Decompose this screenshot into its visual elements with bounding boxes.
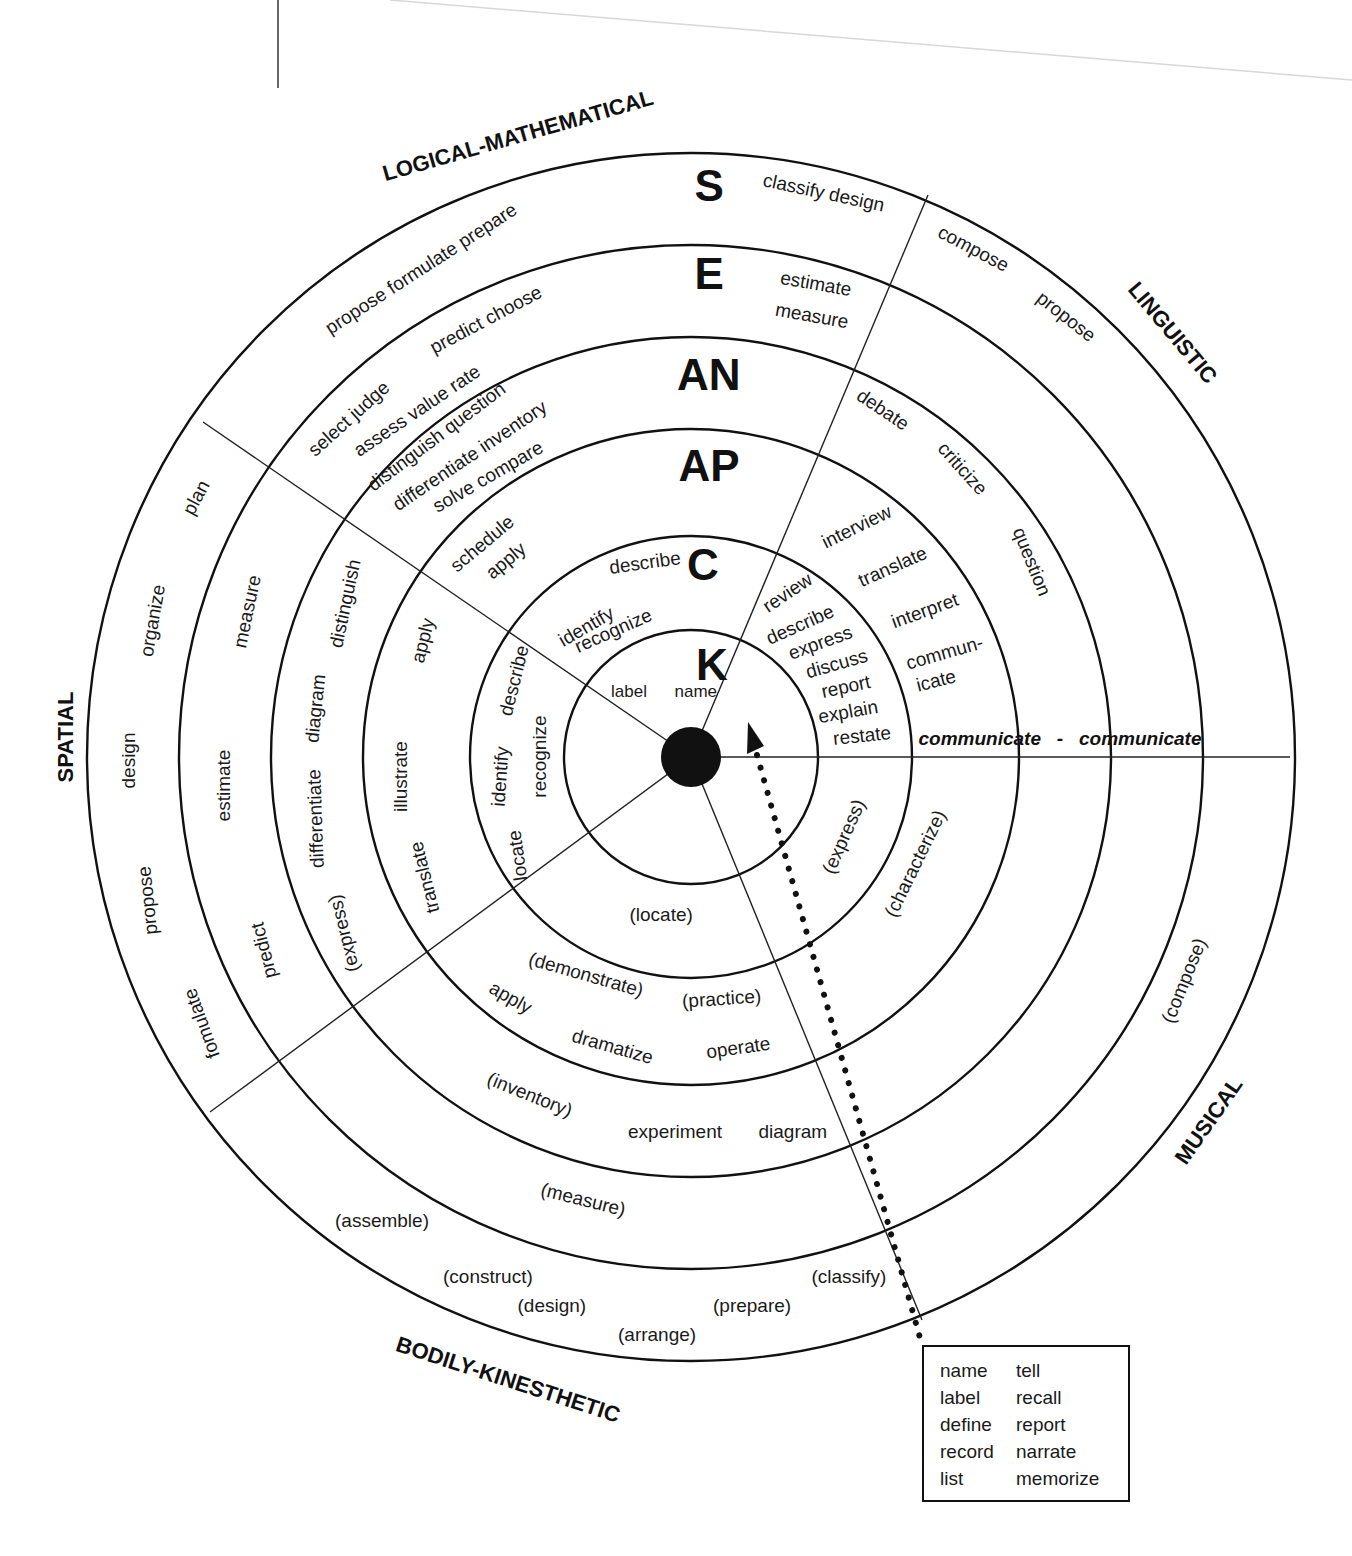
bloom-gardner-wheel-diagram: KCAPANESLOGICAL-MATHEMATICALLINGUISTICSP… — [0, 0, 1352, 1556]
verb-label: identify — [489, 745, 512, 806]
verb-label: diagram — [759, 1122, 828, 1141]
verb-label: label — [611, 683, 647, 700]
knowledge-verbs-legend: name tell label recall define report rec… — [922, 1345, 1130, 1502]
verb-label: design — [119, 732, 138, 788]
verb-label: estimate — [214, 749, 233, 821]
verb-label: (prepare) — [713, 1296, 791, 1315]
page-edge-shadow — [390, 0, 1352, 80]
legend-verb: label — [940, 1386, 1016, 1409]
level-label-s: S — [695, 164, 724, 208]
verb-label: name — [675, 683, 718, 700]
legend-verb: define — [940, 1413, 1016, 1436]
intelligence-label-spatial: SPATIAL — [55, 692, 77, 783]
verb-label: (assemble) — [335, 1211, 429, 1230]
legend-verb: memorize — [1016, 1467, 1126, 1490]
level-label-k: K — [696, 643, 728, 687]
verb-label: (classify) — [812, 1267, 887, 1286]
verb-label: (practice) — [681, 986, 761, 1010]
verb-label: illustrate — [390, 741, 409, 812]
communicate-label: communicate - communicate — [919, 729, 1202, 748]
arrowhead-icon — [747, 722, 764, 754]
center-dot — [661, 727, 721, 787]
level-label-an: AN — [677, 353, 741, 397]
legend-verb: recall — [1016, 1386, 1126, 1409]
level-label-c: C — [687, 543, 719, 587]
verb-label: experiment — [628, 1122, 722, 1141]
verb-label: restate — [832, 723, 892, 748]
level-label-e: E — [695, 252, 724, 296]
verb-label: (design) — [518, 1296, 587, 1315]
legend-verb: tell — [1016, 1359, 1126, 1382]
legend-grid: name tell label recall define report rec… — [940, 1359, 1126, 1490]
verb-label: (arrange) — [618, 1325, 696, 1344]
level-label-ap: AP — [679, 444, 740, 488]
verb-label: (locate) — [630, 905, 693, 924]
legend-verb: list — [940, 1467, 1016, 1490]
verb-label: differentiate — [304, 768, 326, 868]
legend-verb: report — [1016, 1413, 1126, 1436]
legend-verb: record — [940, 1440, 1016, 1463]
legend-verb: name — [940, 1359, 1016, 1382]
verb-label: recognize — [530, 715, 549, 797]
verb-label: (construct) — [443, 1267, 533, 1286]
legend-verb: narrate — [1016, 1440, 1126, 1463]
